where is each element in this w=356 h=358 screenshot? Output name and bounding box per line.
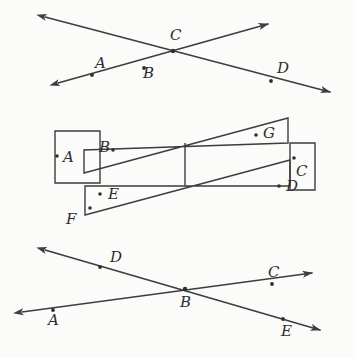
point-dot-e-mid <box>98 192 102 196</box>
point-dot-d-bottom <box>98 265 102 269</box>
point-dot-f-mid <box>88 206 92 210</box>
point-label-e-bottom: E <box>280 322 292 340</box>
point-dot-a-mid <box>55 154 59 158</box>
top-line-2 <box>58 24 268 83</box>
point-label-a-top: A <box>93 54 106 72</box>
point-dot-e-bottom <box>281 317 285 321</box>
point-dot-g-mid <box>254 133 258 137</box>
upper-quadrilateral <box>84 118 288 173</box>
point-label-g-mid: G <box>263 124 275 142</box>
point-label-b-top: B <box>142 64 154 82</box>
point-label-c-top: C <box>170 26 182 44</box>
middle-diagram-group: A B G C D E F <box>55 118 315 228</box>
point-dot-c-bottom <box>270 282 274 286</box>
point-dot-c-mid <box>292 156 296 160</box>
geometry-worksheet-figure: A B C D A B G C D E F <box>0 0 356 358</box>
point-label-a-bottom: A <box>46 311 59 329</box>
top-line-1 <box>45 17 330 92</box>
point-label-a-mid: A <box>61 148 74 166</box>
point-dot-d-mid <box>277 184 281 188</box>
point-label-b-mid: B <box>98 138 110 156</box>
point-label-c-bottom: C <box>268 263 280 281</box>
point-dot-d-top <box>269 79 273 83</box>
point-dot-b-mid <box>111 148 115 152</box>
point-dot-a-top <box>90 73 94 77</box>
point-label-d-mid: D <box>285 177 298 195</box>
diagram-canvas: A B C D A B G C D E F <box>0 0 356 358</box>
point-label-f-mid: F <box>65 210 77 228</box>
point-label-b-bottom: B <box>179 293 191 311</box>
point-label-e-mid: E <box>107 185 119 203</box>
top-diagram-group: A B C D <box>45 17 330 92</box>
point-dot-c-top <box>171 49 175 53</box>
point-label-d-top: D <box>276 59 289 77</box>
point-dot-b-bottom <box>183 287 187 291</box>
bottom-diagram-group: D A B C E <box>22 248 320 340</box>
point-label-d-bottom: D <box>109 248 122 266</box>
left-rectangle <box>55 131 100 183</box>
